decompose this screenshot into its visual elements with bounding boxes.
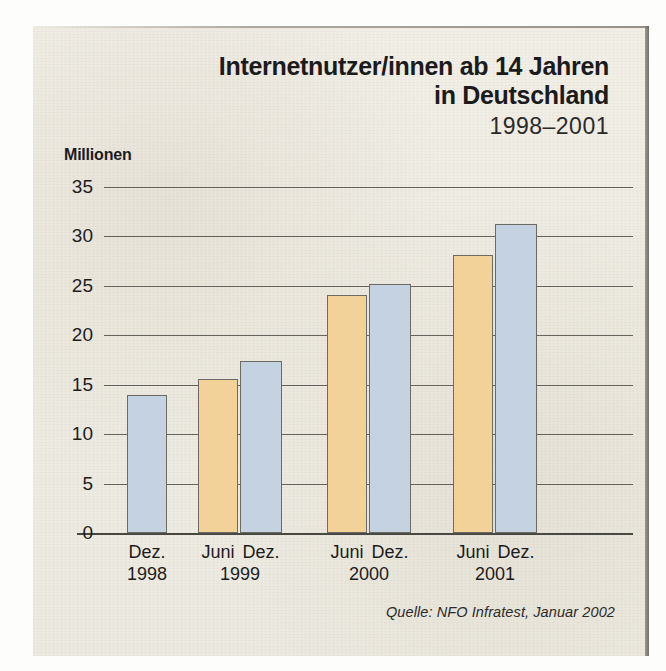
y-tick-5: 5	[59, 473, 93, 495]
x-label-year: 1999	[204, 564, 276, 586]
plot-area: 35 30 25 20 15 10 5 0 Dez. 1998 Juni	[33, 26, 649, 656]
x-label-year-2000: 2000	[333, 564, 405, 586]
scanned-chart-panel: Internetnutzer/innen ab 14 Jahren in Deu…	[33, 26, 649, 656]
x-label-month: Dez.	[497, 542, 534, 562]
x-label-month: Dez.	[242, 542, 279, 562]
y-tick-30: 30	[59, 225, 93, 247]
bar-juni-1999	[198, 379, 238, 533]
y-tick-0: 0	[59, 522, 93, 544]
chart-source-note: Quelle: NFO Infratest, Januar 2002	[386, 604, 615, 620]
x-label-dez-1999: Dez.	[225, 542, 297, 564]
bar-dez-1998	[127, 395, 167, 533]
bar-dez-2001	[495, 224, 537, 533]
y-tick-25: 25	[59, 275, 93, 297]
bar-juni-2000	[327, 295, 367, 533]
gridline-30	[104, 236, 633, 237]
x-label-year: 2000	[333, 564, 405, 586]
x-label-month: Dez.	[371, 542, 408, 562]
y-tick-20: 20	[59, 324, 93, 346]
bar-dez-1999	[240, 361, 282, 533]
x-label-dez-2001: Dez.	[480, 542, 552, 564]
x-label-dez-1998: Dez. 1998	[111, 542, 183, 586]
x-label-year: 1998	[111, 564, 183, 586]
y-tick-10: 10	[59, 423, 93, 445]
gridline-35	[104, 187, 633, 188]
x-label-month: Dez.	[128, 542, 165, 562]
x-label-year-2001: 2001	[459, 564, 531, 586]
y-tick-15: 15	[59, 374, 93, 396]
bar-dez-2000	[369, 284, 411, 533]
axis-baseline	[77, 533, 633, 535]
chart-page: Internetnutzer/innen ab 14 Jahren in Deu…	[0, 0, 666, 671]
y-tick-35: 35	[59, 176, 93, 198]
x-label-year-1999: 1999	[204, 564, 276, 586]
bar-juni-2001	[453, 255, 493, 533]
x-label-dez-2000: Dez.	[354, 542, 426, 564]
x-label-year: 2001	[459, 564, 531, 586]
